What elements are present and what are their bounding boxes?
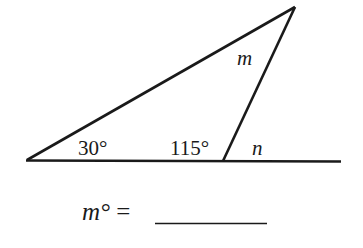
angle-n-label: n: [252, 138, 263, 159]
question-equals: =: [116, 198, 130, 225]
triangle-diagram: [0, 0, 363, 248]
angle-115-label: 115°: [170, 138, 209, 159]
question-variable: m°: [82, 198, 110, 225]
question-line: m° =: [82, 199, 130, 224]
angle-m-label: m: [237, 48, 252, 69]
base-line: [26, 161, 341, 162]
angle-30-label: 30°: [78, 138, 107, 159]
